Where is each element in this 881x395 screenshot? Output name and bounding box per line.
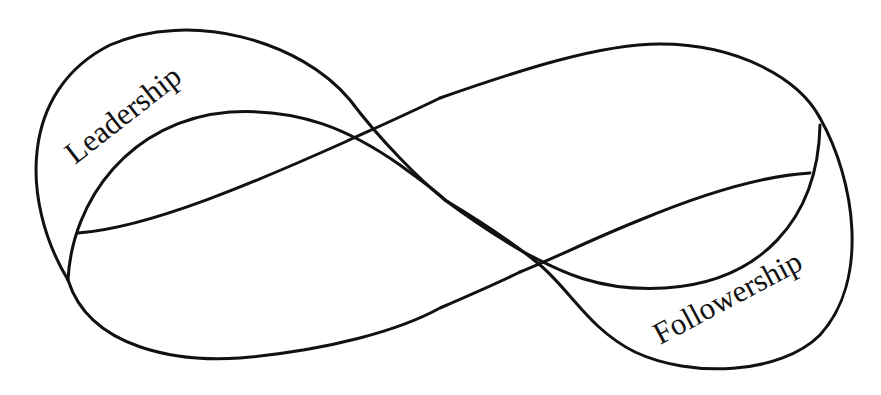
strip-edge-inner-left-arc [68, 112, 445, 280]
leadership-label: Leadership [58, 58, 188, 170]
strip-edge-outer-left-bottom [68, 272, 520, 359]
followership-label: Followership [647, 243, 808, 351]
strip-edge-top-right [440, 44, 820, 118]
mobius-strip-diagram: Leadership Followership [0, 0, 881, 395]
